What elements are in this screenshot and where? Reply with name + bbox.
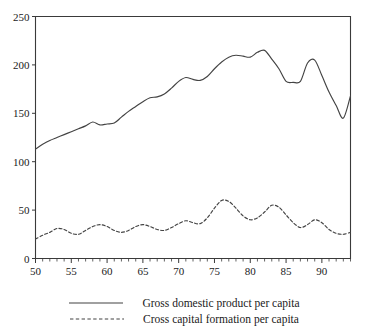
x-tick-label: 75 — [209, 265, 221, 277]
plot-frame — [36, 17, 351, 259]
x-tick-label: 80 — [245, 265, 257, 277]
y-tick-label: 200 — [13, 59, 30, 71]
x-tick-label: 55 — [66, 265, 78, 277]
x-tick-label: 50 — [30, 265, 42, 277]
chart-plot-area: 050100150200250 505560657075808590 — [0, 0, 368, 328]
x-tick-label: 70 — [173, 265, 185, 277]
x-tick-label: 90 — [316, 265, 328, 277]
series-line-capital-formation — [36, 200, 351, 239]
x-tick-label: 85 — [281, 265, 293, 277]
y-tick-label: 100 — [13, 156, 30, 168]
x-axis-tick-labels: 505560657075808590 — [30, 265, 328, 277]
legend-swatch-dashed-icon — [69, 314, 125, 324]
legend-label-capital-formation: Cross capital formation per capita — [143, 313, 299, 325]
legend-label-gdp: Gross domestic product per capita — [142, 297, 299, 309]
chart-container: 050100150200250 505560657075808590 Gross… — [0, 0, 368, 328]
legend-item-capital-formation: Cross capital formation per capita — [69, 312, 299, 326]
series-line-gdp — [36, 50, 351, 149]
axis-ticks — [32, 17, 351, 264]
legend-item-gdp: Gross domestic product per capita — [68, 296, 299, 310]
y-tick-label: 50 — [19, 204, 31, 216]
y-tick-label: 150 — [13, 107, 30, 119]
x-tick-label: 60 — [102, 265, 114, 277]
y-tick-label: 0 — [24, 253, 30, 265]
chart-legend: Gross domestic product per capita Cross … — [0, 296, 368, 326]
x-tick-label: 65 — [137, 265, 149, 277]
y-axis-tick-labels: 050100150200250 — [13, 11, 30, 265]
legend-swatch-solid-icon — [68, 298, 124, 308]
y-tick-label: 250 — [13, 11, 30, 23]
